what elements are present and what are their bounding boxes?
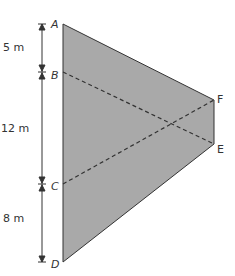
vertex-label-E: E — [217, 143, 224, 156]
dimension-label-BC: 12 m — [1, 122, 29, 135]
shape-AFED — [63, 24, 214, 262]
dimension-label-AB: 5 m — [3, 41, 24, 54]
vertex-label-C: C — [51, 180, 59, 193]
vertex-label-F: F — [217, 93, 223, 106]
dimension-line — [38, 24, 46, 262]
vertex-label-D: D — [51, 258, 59, 271]
trapezoid-diagram: 5 m 12 m 8 m A B C D F E — [0, 0, 235, 276]
vertex-label-A: A — [50, 18, 59, 31]
vertex-label-B: B — [51, 69, 59, 82]
dimension-label-CD: 8 m — [3, 212, 24, 225]
